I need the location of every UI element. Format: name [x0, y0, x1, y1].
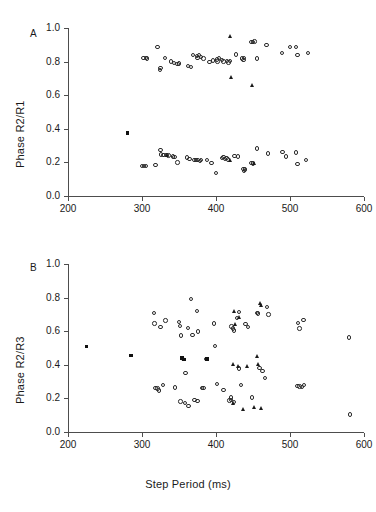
data-point-circle [228, 59, 232, 63]
x-axis-tick [68, 433, 69, 437]
data-point-circle [246, 325, 250, 329]
data-point-circle [158, 325, 162, 329]
x-axis-tick [290, 197, 291, 201]
data-point-triangle [228, 158, 232, 162]
data-point-circle [237, 310, 241, 314]
data-point-triangle [252, 405, 256, 409]
figure-container: A Phase R2/R1 0.00.20.40.60.81.020030040… [0, 0, 376, 512]
data-point-circle [196, 329, 200, 333]
x-axis-tick [216, 197, 217, 201]
data-point-circle [250, 395, 254, 399]
y-axis-tick-label: 0.8 [28, 56, 60, 67]
data-point-circle [152, 311, 156, 315]
data-point-circle [243, 167, 247, 171]
y-axis-tick-label: 0.4 [28, 359, 60, 370]
data-point-triangle [259, 406, 263, 410]
data-point-circle [199, 158, 203, 162]
y-axis-tick-label: 0.8 [28, 292, 60, 303]
x-axis-tick-label: 500 [270, 439, 310, 450]
data-point-circle [221, 388, 225, 392]
data-point-circle [294, 45, 298, 49]
data-point-triangle [252, 161, 256, 165]
y-axis-tick [64, 129, 68, 130]
data-point-circle [157, 388, 161, 392]
data-point-circle [195, 309, 199, 313]
data-point-circle [266, 151, 270, 155]
data-point-square [85, 345, 88, 348]
x-axis-tick-label: 300 [122, 439, 162, 450]
data-point-circle [178, 399, 182, 403]
data-point-circle [265, 305, 269, 309]
x-axis-label: Step Period (ms) [0, 478, 376, 490]
x-axis-tick [142, 197, 143, 201]
data-point-square [129, 354, 132, 357]
data-point-triangle [255, 354, 259, 358]
data-point-circle [187, 157, 191, 161]
x-axis-tick-label: 200 [48, 439, 88, 450]
y-axis-tick-label: 1.0 [28, 258, 60, 269]
data-point-circle [175, 160, 179, 164]
data-point-circle [280, 51, 284, 55]
data-point-circle [232, 328, 236, 332]
data-point-circle [189, 297, 193, 301]
y-axis-tick [64, 95, 68, 96]
data-point-circle [296, 321, 300, 325]
x-axis-tick [364, 433, 365, 437]
data-point-circle [260, 369, 264, 373]
data-point-square [126, 131, 129, 134]
x-axis-tick [142, 433, 143, 437]
data-point-circle [295, 53, 299, 57]
panel-b-plot-area: 0.00.20.40.60.81.0200300400500600 [68, 264, 364, 432]
y-axis-tick-label: 0.0 [28, 426, 60, 437]
data-point-circle [186, 326, 190, 330]
y-axis-tick-label: 0.6 [28, 89, 60, 100]
data-point-circle [183, 371, 187, 375]
data-point-triangle [256, 362, 260, 366]
data-point-triangle [229, 75, 233, 79]
data-point-circle [173, 385, 177, 389]
data-point-circle [252, 39, 256, 43]
data-point-circle [255, 146, 259, 150]
data-point-circle [295, 162, 299, 166]
y-axis-tick-label: 1.0 [28, 22, 60, 33]
panel-a-plot-area: 0.00.20.40.60.81.0200300400500600 [68, 28, 364, 196]
data-point-triangle [228, 34, 232, 38]
x-axis-tick [290, 433, 291, 437]
x-axis-tick-label: 400 [196, 439, 236, 450]
data-point-circle [236, 154, 240, 158]
x-axis-tick-label: 300 [122, 203, 162, 214]
data-point-circle [212, 321, 216, 325]
panel-a: A Phase R2/R1 0.00.20.40.60.81.020030040… [0, 0, 376, 232]
x-axis-tick-label: 200 [48, 203, 88, 214]
data-point-circle [302, 383, 306, 387]
y-axis-tick [64, 62, 68, 63]
panel-b-y-axis-label: Phase R2/R3 [14, 336, 26, 404]
data-point-circle [172, 155, 176, 159]
data-point-square [182, 358, 185, 361]
data-point-circle [242, 56, 246, 60]
data-point-square [205, 357, 208, 360]
data-point-circle [201, 56, 205, 60]
data-point-circle [153, 163, 157, 167]
y-axis-tick-label: 0.0 [28, 190, 60, 201]
data-point-circle [215, 382, 219, 386]
data-point-circle [266, 312, 270, 316]
data-point-circle [152, 321, 156, 325]
data-point-circle [288, 45, 292, 49]
y-axis-tick [64, 365, 68, 366]
y-axis-tick-label: 0.6 [28, 325, 60, 336]
data-point-circle [294, 150, 298, 154]
data-point-triangle [233, 322, 237, 326]
data-point-circle [163, 56, 167, 60]
data-point-circle [234, 52, 238, 56]
data-point-circle [178, 324, 182, 328]
x-axis-tick-label: 600 [344, 439, 376, 450]
data-point-circle [256, 311, 260, 315]
y-axis-tick-label: 0.4 [28, 123, 60, 134]
data-point-circle [284, 154, 288, 158]
y-axis-tick [64, 162, 68, 163]
data-point-circle [306, 51, 310, 55]
data-point-circle [177, 61, 181, 65]
data-point-triangle [245, 364, 249, 368]
data-point-circle [145, 56, 149, 60]
